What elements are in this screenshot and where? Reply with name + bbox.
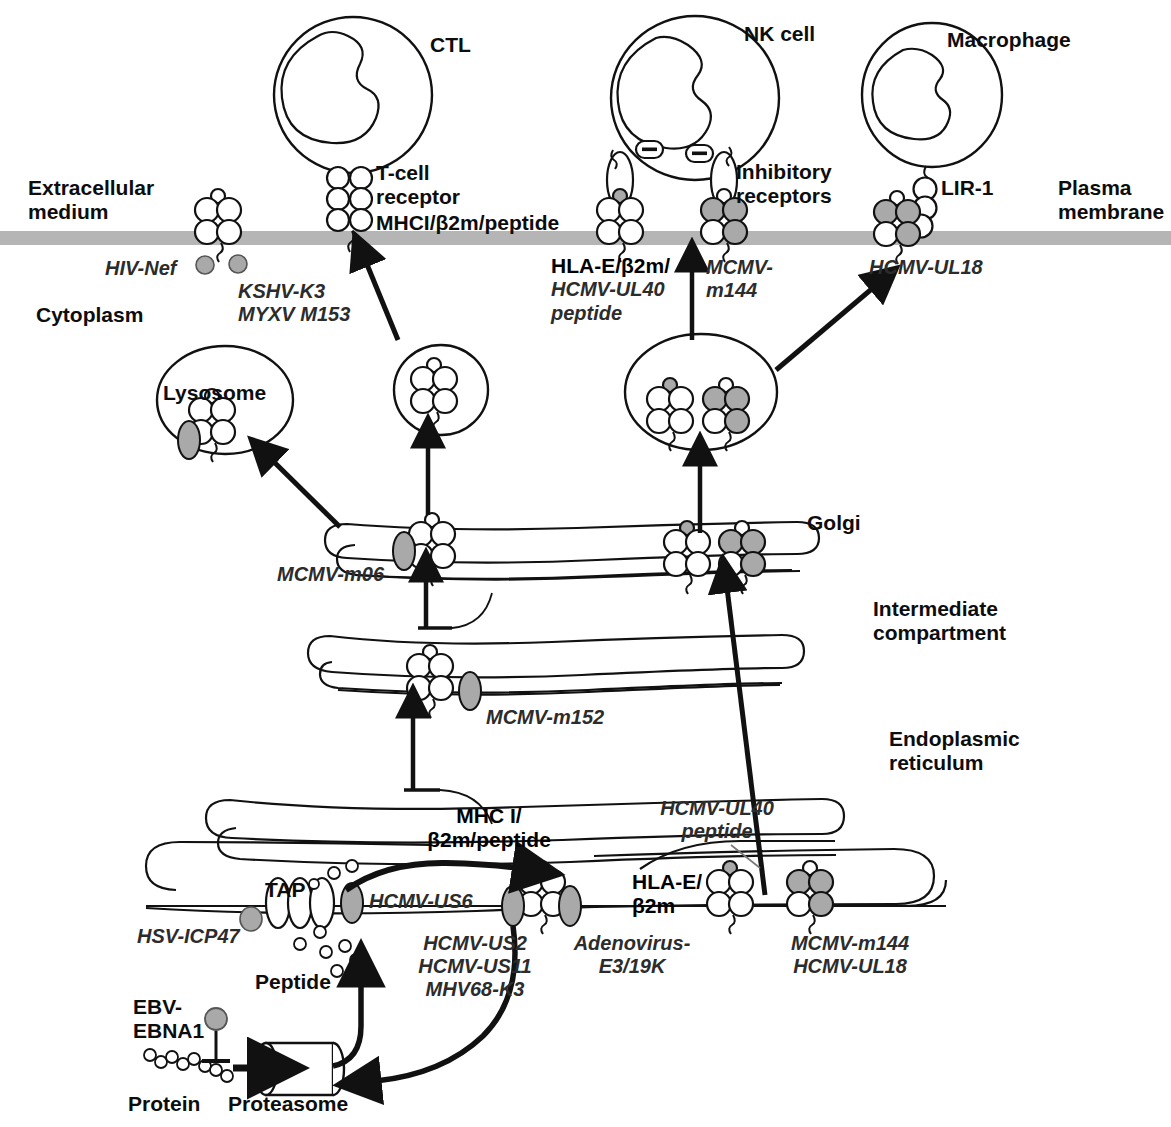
label-hla-e-surface-1: HLA-E/β2m/ [551, 254, 670, 278]
hsv-icp47-blocker [240, 907, 262, 931]
label-protein: Protein [128, 1092, 200, 1116]
hla-e-b2m-surface [597, 189, 643, 262]
label-ebv-ebna1: EBV- EBNA1 [133, 995, 204, 1044]
transport-vesicle-hlae-m144 [625, 334, 777, 451]
label-macrophage: Macrophage [947, 28, 1071, 52]
label-peptide: Peptide [255, 970, 331, 994]
label-hcmv-us6: HCMV-US6 [369, 890, 473, 913]
hcmv-us2-blocker [502, 886, 524, 926]
label-cytoplasm: Cytoplasm [36, 303, 143, 327]
arrow-tap-into-er [346, 863, 518, 890]
mhc-surface-hiv-nef [195, 189, 241, 262]
label-hcmv-ul40-peptide: HCMV-UL40 peptide [637, 797, 797, 843]
label-proteasome: Proteasome [228, 1092, 348, 1116]
label-lysosome: Lysosome [163, 381, 266, 405]
label-endoplasmic-reticulum: Endoplasmic reticulum [889, 727, 1020, 776]
label-mhc-er: MHC I/ β2m/peptide [414, 804, 564, 853]
adenovirus-e3-blocker [559, 886, 581, 926]
label-mcmv-m144-hcmv-ul18-er: MCMV-m144 HCMV-UL18 [760, 932, 940, 978]
arrow-golgi-to-lysosome [272, 460, 340, 527]
hcmv-ul18-surface [874, 191, 920, 264]
label-adenovirus-e3: Adenovirus- E3/19K [557, 932, 707, 978]
figure-canvas: Extracellular medium Cytoplasm Plasma me… [0, 0, 1171, 1127]
label-hla-e-surface-3: peptide [551, 302, 622, 325]
mcmv-m144-er-complex [787, 861, 833, 934]
label-intermediate-compartment: Intermediate compartment [873, 597, 1006, 646]
label-hcmv-ul18-surface: HCMV-UL18 [869, 256, 983, 279]
label-hla-e-er: HLA-E/ β2m [632, 870, 702, 919]
hiv-nef-dot [196, 256, 214, 274]
transport-vesicle-mhc [394, 345, 488, 435]
label-hsv-icp47: HSV-ICP47 [137, 925, 240, 948]
golgi-apparatus [325, 513, 819, 594]
label-mhc-surface: MHCI/β2m/peptide [376, 211, 559, 235]
kshv-k3-dot [229, 255, 247, 273]
label-mcmv-m152: MCMV-m152 [486, 706, 604, 729]
label-tap: TAP [265, 878, 305, 902]
label-tcr: T-cell receptor [376, 161, 460, 210]
label-hiv-nef: HIV-Nef [105, 257, 176, 280]
label-golgi: Golgi [807, 511, 861, 535]
arrow-vesicle-to-membrane [366, 262, 398, 340]
arrow-er-to-golgi-long [727, 588, 765, 895]
proteasome-cylinder [255, 1043, 344, 1095]
protein-chain [144, 1049, 233, 1082]
hla-e-er-complex [707, 861, 753, 934]
plasma-membrane-band [0, 231, 1171, 245]
label-lir1: LIR-1 [941, 176, 994, 200]
arrow-vesicle-to-macrophage [776, 287, 874, 370]
mcmv-m06-lysosome [178, 421, 200, 459]
mhc-er-complex [519, 861, 565, 934]
label-hla-e-surface-2: HCMV-UL40 [551, 278, 665, 301]
ebv-ebna1-dot [205, 1008, 227, 1030]
label-hcmv-us2-us11-mhv68: HCMV-US2 HCMV-US11 MHV68-K3 [385, 932, 565, 1002]
label-mcmv-m144-surface: MCMV- m144 [706, 256, 773, 302]
label-plasma-membrane: Plasma membrane [1058, 176, 1164, 225]
label-ctl: CTL [430, 33, 471, 57]
label-mcmv-m06: MCMV-m06 [277, 563, 384, 586]
mcmv-m06-golgi [393, 532, 415, 570]
label-nk-cell: NK cell [744, 22, 815, 46]
label-extracellular-medium: Extracellular medium [28, 176, 154, 225]
label-kshv-k3-myxv: KSHV-K3 MYXV M153 [238, 280, 350, 326]
label-inhibitory-receptors: Inhibitory receptors [736, 160, 832, 209]
mcmv-m152 [459, 672, 481, 710]
